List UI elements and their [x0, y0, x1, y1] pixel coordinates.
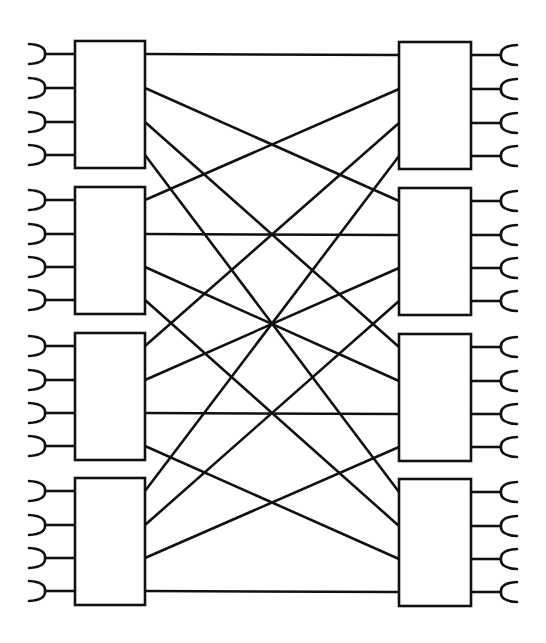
- left-switch-4: [29, 478, 145, 605]
- output-connector-icon: [501, 113, 517, 133]
- input-connector-icon: [29, 336, 45, 356]
- output-connector-icon: [501, 404, 517, 424]
- input-connector-icon: [29, 78, 45, 98]
- input-connector-icon: [29, 44, 45, 64]
- switch-box: [399, 479, 471, 606]
- input-connector-icon: [29, 548, 45, 568]
- right-switch-stage: [399, 42, 517, 606]
- input-connector-icon: [29, 436, 45, 456]
- switch-box: [75, 333, 145, 460]
- output-connector-icon: [501, 482, 517, 502]
- input-connector-icon: [29, 224, 45, 244]
- output-connector-icon: [501, 79, 517, 99]
- switch-box: [399, 188, 471, 315]
- right-switch-4: [399, 479, 517, 606]
- switch-box: [75, 187, 145, 314]
- input-connector-icon: [29, 403, 45, 423]
- output-connector-icon: [501, 516, 517, 536]
- input-connector-icon: [29, 112, 45, 132]
- crossbar-wires: [145, 54, 399, 592]
- input-connector-icon: [29, 290, 45, 310]
- output-connector-icon: [501, 225, 517, 245]
- right-switch-1: [399, 42, 517, 169]
- wire-L1.1-to-R1.1: [145, 54, 399, 55]
- left-switch-2: [29, 187, 145, 314]
- output-connector-icon: [501, 437, 517, 457]
- input-connector-icon: [29, 581, 45, 601]
- left-switch-3: [29, 333, 145, 460]
- switch-box: [75, 478, 145, 605]
- output-connector-icon: [501, 291, 517, 311]
- input-connector-icon: [29, 257, 45, 277]
- interconnection-network-diagram: [0, 0, 546, 643]
- right-switch-2: [399, 188, 517, 315]
- output-connector-icon: [501, 371, 517, 391]
- right-switch-3: [399, 334, 517, 461]
- input-connector-icon: [29, 515, 45, 535]
- input-connector-icon: [29, 481, 45, 501]
- output-connector-icon: [501, 337, 517, 357]
- input-connector-icon: [29, 145, 45, 165]
- output-connector-icon: [501, 582, 517, 602]
- output-connector-icon: [501, 146, 517, 166]
- switch-box: [75, 41, 145, 168]
- left-switch-stage: [29, 41, 145, 605]
- output-connector-icon: [501, 45, 517, 65]
- left-switch-1: [29, 41, 145, 168]
- output-connector-icon: [501, 258, 517, 278]
- input-connector-icon: [29, 370, 45, 390]
- output-connector-icon: [501, 191, 517, 211]
- input-connector-icon: [29, 190, 45, 210]
- output-connector-icon: [501, 549, 517, 569]
- wire-L4.4-to-R4.4: [145, 591, 399, 592]
- switch-box: [399, 334, 471, 461]
- switch-box: [399, 42, 471, 169]
